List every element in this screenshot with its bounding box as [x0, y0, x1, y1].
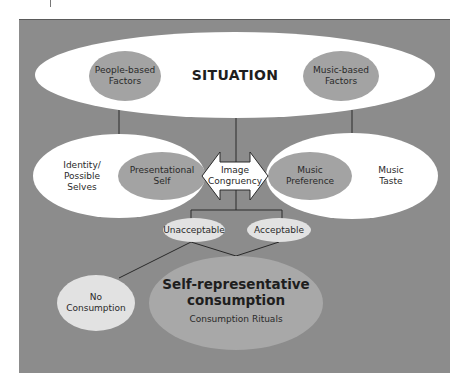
consumption-rituals-label: Consumption Rituals — [189, 314, 282, 325]
self-representative-title: Self-representative consumption — [162, 276, 309, 308]
diagram-canvas — [0, 0, 470, 391]
identity-label: Identity/ Possible Selves — [63, 160, 101, 193]
music-factors-label: Music-based Factors — [313, 65, 369, 87]
situation-label: SITUATION — [192, 70, 279, 81]
people-factors-label: People-based Factors — [95, 65, 155, 87]
presentational-self-label: Presentational Self — [130, 165, 195, 187]
image-congruency-label: Image Congruency — [208, 165, 262, 187]
unacceptable-label: Unacceptable — [163, 225, 225, 236]
music-taste-label: Music Taste — [378, 165, 404, 187]
line-unacceptable-self-rep — [191, 242, 236, 256]
music-preference-label: Music Preference — [286, 165, 334, 187]
line-acceptable-self-rep — [236, 242, 279, 256]
acceptable-label: Acceptable — [254, 225, 304, 236]
no-consumption-label: No Consumption — [66, 292, 126, 314]
